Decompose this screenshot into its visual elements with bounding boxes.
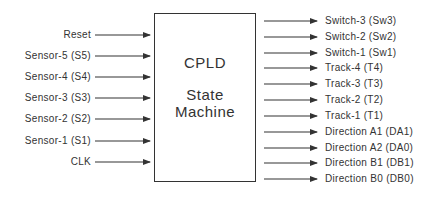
input-label-sensor-2: Sensor-2 (S2) [25, 113, 91, 125]
output-arrows [264, 21, 317, 179]
output-label-direction-b1: Direction B1 (DB1) [325, 157, 414, 169]
input-label-sensor-5: Sensor-5 (S5) [25, 50, 91, 62]
input-label-reset: Reset [63, 29, 91, 41]
input-arrows [95, 35, 150, 162]
output-label-switch-2: Switch-2 (Sw2) [325, 31, 396, 43]
input-label-sensor-3: Sensor-3 (S3) [25, 92, 91, 104]
output-label-direction-b0: Direction B0 (DB0) [325, 173, 414, 185]
input-label-clk: CLK [71, 156, 91, 168]
output-label-direction-a1: Direction A1 (DA1) [325, 126, 413, 138]
output-label-track-1: Track-1 (T1) [325, 110, 383, 122]
output-label-track-2: Track-2 (T2) [325, 94, 383, 106]
output-label-direction-a2: Direction A2 (DA0) [325, 142, 413, 154]
input-label-sensor-4: Sensor-4 (S4) [25, 71, 91, 83]
block-diagram: CPLD State Machine Reset Sensor-5 (S5) S… [0, 0, 431, 219]
input-label-sensor-1: Sensor-1 (S1) [25, 135, 91, 147]
block-title-state: State [155, 86, 255, 103]
block-title-cpld: CPLD [155, 54, 255, 71]
output-label-switch-1: Switch-1 (Sw1) [325, 47, 396, 59]
block-title-machine: Machine [155, 103, 255, 120]
output-label-track-4: Track-4 (T4) [325, 62, 383, 74]
output-label-switch-3: Switch-3 (Sw3) [325, 15, 396, 27]
cpld-state-machine-block: CPLD State Machine [154, 13, 256, 182]
output-label-track-3: Track-3 (T3) [325, 78, 383, 90]
